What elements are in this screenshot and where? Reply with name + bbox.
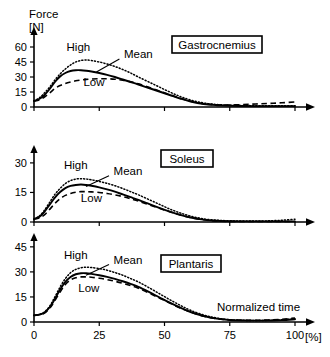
y-axis-arrow [30,233,37,241]
series-annotation-mean: Mean [124,48,153,60]
panel-group: 015304560HighMeanLowGastrocnemius01530Hi… [15,27,315,341]
panel-title-gastrocnemius: Gastrocnemius [178,39,256,51]
y-tick-label: 60 [15,41,27,53]
y-tick-label: 45 [15,56,27,68]
series-annotation-mean: Mean [114,254,143,266]
panel-plantaris: 01530450255075100HighMeanLowPlantaris [15,233,315,341]
y-tick-label: 30 [15,71,27,83]
y-tick-label: 30 [15,266,27,278]
panel-title-soleus: Soleus [169,153,204,165]
series-annotation-low: Low [78,282,100,294]
panel-title-plantaris: Plantaris [169,258,214,270]
y-tick-label: 0 [21,316,27,328]
curve-mean [34,70,295,106]
curve-high [34,60,295,106]
x-axis-arrow [306,103,315,111]
series-annotation-low: Low [81,192,103,204]
y-tick-label: 30 [15,157,27,169]
y-tick-label: 0 [21,216,27,228]
y-tick-label: 45 [15,241,27,253]
y-tick-label: 0 [21,101,27,113]
y-tick-label: 15 [15,86,27,98]
series-annotation-high: High [67,41,91,53]
y-axis-label-force: Force [29,8,58,20]
mean-leader-line [86,265,109,276]
panel-gastrocnemius: 015304560HighMeanLowGastrocnemius [15,27,315,113]
curve-low [34,277,295,321]
x-axis-unit-label: [%] [305,331,322,343]
x-tick-label: 100 [286,329,304,341]
x-axis-arrow [306,318,315,326]
curve-low [34,79,295,105]
x-axis-arrow [306,218,315,226]
series-annotation-low: Low [83,76,105,88]
series-annotation-mean: Mean [114,165,143,177]
mean-leader-line [96,59,119,72]
series-annotation-high: High [64,249,88,261]
x-tick-label: 50 [158,329,170,341]
x-tick-label: 75 [224,329,236,341]
y-axis-label-unit: [N] [29,21,44,33]
x-axis-label-normalized-time: Normalized time [217,301,300,313]
force-vs-normalized-time-figure: Force [N] 015304560HighMeanLowGastrocnem… [0,0,330,357]
x-tick-label: 0 [31,329,37,341]
y-tick-label: 15 [15,186,27,198]
x-tick-label: 25 [93,329,105,341]
mean-leader-line [86,176,109,187]
curve-mean [34,185,295,222]
series-annotation-high: High [64,159,88,171]
y-axis-arrow [30,145,37,153]
y-tick-label: 15 [15,291,27,303]
panel-soleus: 01530HighMeanLowSoleus [15,145,315,228]
